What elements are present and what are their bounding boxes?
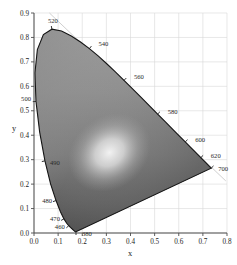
y-tick-label: 0.8 <box>20 34 29 42</box>
wavelength-label-500: 500 <box>21 95 32 102</box>
wavelength-label-470: 470 <box>50 215 61 222</box>
y-tick-label: 0.4 <box>20 132 29 140</box>
wavelength-label-380: 380 <box>82 230 93 237</box>
x-tick-label: 0.2 <box>78 238 87 246</box>
wavelength-label-520: 520 <box>48 17 59 24</box>
y-tick-label: 0.1 <box>20 205 29 213</box>
x-tick-label: 0.4 <box>126 238 135 246</box>
x-tick-label: 0.5 <box>150 238 159 246</box>
x-tick-label: 0.1 <box>54 238 63 246</box>
cie-chart-svg: 0.00.10.20.30.40.50.60.70.8 0.00.10.20.3… <box>0 0 237 265</box>
wavelength-label-540: 540 <box>98 40 109 47</box>
wavelength-tick <box>51 26 52 29</box>
x-tick-label: 0.3 <box>102 238 111 246</box>
wavelength-label-480: 480 <box>42 197 53 204</box>
wavelength-label-460: 460 <box>55 223 66 230</box>
y-tick-label: 0.7 <box>20 58 29 66</box>
x-axis-title: x <box>128 249 133 258</box>
wavelength-label-560: 560 <box>134 73 145 80</box>
chromaticity-diagram-figure: 0.00.10.20.30.40.50.60.70.8 0.00.10.20.3… <box>0 0 237 265</box>
wavelength-label-490: 490 <box>50 159 61 166</box>
y-tick-label: 0.0 <box>20 230 29 238</box>
y-tick-label: 0.5 <box>20 107 29 115</box>
wavelength-label-580: 580 <box>168 108 179 115</box>
x-axis-tick-labels: 0.00.10.20.30.40.50.60.70.8 <box>30 238 232 246</box>
wavelength-label-620: 620 <box>211 152 222 159</box>
wavelength-label-600: 600 <box>195 136 206 143</box>
y-axis-title: y <box>12 124 17 133</box>
x-tick-label: 0.6 <box>174 238 183 246</box>
y-axis-tick-labels: 0.00.10.20.30.40.50.60.70.80.9 <box>20 10 29 238</box>
y-tick-label: 0.2 <box>20 181 29 189</box>
y-tick-label: 0.3 <box>20 156 29 164</box>
wavelength-label-700: 700 <box>218 165 229 172</box>
x-tick-label: 0.0 <box>30 238 39 246</box>
x-tick-label: 0.7 <box>198 238 207 246</box>
x-tick-label: 0.8 <box>223 238 232 246</box>
y-tick-label: 0.6 <box>20 83 29 91</box>
y-tick-label: 0.9 <box>20 10 29 18</box>
